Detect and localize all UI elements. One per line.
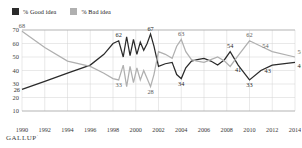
chart-legend: % Good idea % Bad idea [12, 5, 111, 18]
gallup-brand: GALLUP· [6, 133, 38, 142]
data-label-good-54: 54 [227, 42, 234, 49]
data-label-bad-62: 62 [246, 31, 252, 38]
legend-swatch-bad-idea [70, 8, 77, 15]
x-tick-label-1996: 1996 [84, 126, 96, 133]
x-tick-label-1990: 1990 [16, 126, 28, 133]
x-tick-label-2002: 2002 [152, 126, 164, 133]
x-tick-label-2010: 2010 [243, 126, 255, 133]
gallup-line-chart: % Good idea % Bad idea 10203040506070 26… [0, 0, 301, 148]
x-tick-label-2008: 2008 [221, 126, 233, 133]
legend-item-bad-idea[interactable]: % Bad idea [70, 8, 111, 15]
legend-swatch-good-idea [12, 8, 19, 15]
gallup-brand-name: GALLUP [6, 134, 37, 142]
data-label-good-26: 26 [14, 86, 20, 93]
gallup-brand-mark: · [37, 133, 39, 138]
x-tick-label-1994: 1994 [61, 126, 73, 133]
data-label-good-62: 62 [116, 31, 122, 38]
data-label-good-46: 46 [298, 62, 302, 69]
y-tick-label-50: 50 [13, 53, 19, 60]
y-tick-label-60: 60 [13, 40, 19, 47]
data-label-good-43: 43 [265, 67, 271, 74]
data-label-bad-50: 50 [298, 48, 302, 55]
data-label-good-41: 41 [235, 66, 241, 73]
legend-item-good-idea[interactable]: % Good idea [12, 8, 56, 15]
data-label-bad-28: 28 [147, 88, 153, 95]
data-label-good-34: 34 [178, 80, 185, 87]
x-tick-label-2000: 2000 [130, 126, 142, 133]
data-label-bad-33: 33 [116, 81, 122, 88]
legend-label-good-idea: % Good idea [23, 8, 56, 15]
x-tick-label-1998: 1998 [107, 126, 119, 133]
y-tick-label-10: 10 [13, 107, 19, 114]
data-label-good-33: 33 [246, 81, 252, 88]
x-tick-label-2014: 2014 [289, 126, 301, 133]
legend-label-bad-idea: % Bad idea [81, 8, 111, 15]
y-tick-label-20: 20 [13, 94, 19, 101]
x-tick-label-1992: 1992 [39, 126, 51, 133]
data-label-good-67: 67 [147, 25, 153, 32]
data-label-bad-54: 54 [262, 42, 269, 49]
y-axis-ticks: 10203040506070 [13, 26, 19, 114]
plot-area: 10203040506070 2662673454413343466833286… [0, 20, 301, 125]
gridlines [22, 30, 295, 111]
x-axis-ticks: 1990199219941996199820002002200420062008… [0, 125, 301, 139]
x-tick-label-2006: 2006 [198, 126, 210, 133]
x-tick-label-2004: 2004 [175, 126, 187, 133]
y-tick-label-40: 40 [13, 67, 19, 74]
data-label-bad-63: 63 [178, 30, 184, 37]
plot-svg: 10203040506070 2662673454413343466833286… [0, 20, 301, 125]
data-label-bad-68: 68 [19, 22, 25, 29]
x-tick-label-2012: 2012 [266, 126, 278, 133]
